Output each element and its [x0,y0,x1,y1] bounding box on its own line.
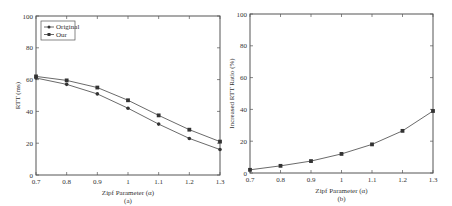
data-point [95,86,99,90]
y-tick-label: 100 [23,13,34,21]
x-tick-label: 1 [340,176,344,184]
data-point [248,168,252,172]
y-tick-label: 80 [240,42,248,50]
y-axis-label: Increased RTT Ratio (%) [228,58,236,129]
data-point [157,122,161,126]
y-axis-label: RTT (ms) [14,81,22,109]
data-point [65,83,69,87]
caption: (a) [124,197,132,205]
data-point [96,92,100,96]
x-axis-label: Zipf Parameter (α) [102,189,155,197]
chart-b: 0204060801000.70.80.911.11.21.3Zipf Para… [228,11,438,204]
legend: OriginalOur [41,21,79,40]
data-point [65,78,69,82]
y-tick-label: 40 [26,108,34,116]
y-tick-label: 80 [26,44,34,52]
data-point [370,142,374,146]
x-tick-label: 1.1 [154,178,163,186]
x-tick-label: 1.1 [368,176,377,184]
legend-entry: Our [56,31,68,39]
data-point [401,129,405,133]
series-line-original [36,78,220,150]
data-point [218,148,222,152]
data-point [126,98,130,102]
data-point [34,75,38,79]
y-tick-label: 100 [237,11,248,19]
x-tick-label: 1.3 [216,178,225,186]
y-tick-label: 40 [240,106,248,114]
x-axis-label: Zipf Parameter (α) [315,187,368,195]
data-point [309,159,313,163]
y-tick-label: 20 [26,140,34,148]
data-point [157,113,161,117]
x-tick-label: 0.8 [62,178,71,186]
x-tick-label: 0.9 [307,176,316,184]
figure: 0204060801000.70.80.911.11.21.3Zipf Para… [0,0,452,206]
y-tick-label: 20 [240,138,248,146]
data-point [431,109,435,113]
x-tick-label: 0.7 [246,176,255,184]
chart-a: 0204060801000.70.80.911.11.21.3Zipf Para… [14,13,225,206]
data-point [187,128,191,132]
plot-area [250,14,433,173]
data-point [126,106,130,110]
y-tick-label: 60 [26,76,34,84]
series-line-increased-rtt-ratio [250,111,433,170]
x-tick-label: 1 [126,178,130,186]
data-point [188,137,192,141]
caption: (b) [337,195,346,203]
y-tick-label: 60 [240,74,248,82]
x-tick-label: 0.8 [276,176,285,184]
x-tick-label: 1.2 [185,178,194,186]
x-tick-label: 1.3 [429,176,438,184]
data-point [340,152,344,156]
data-point [279,164,283,168]
x-tick-label: 1.2 [398,176,407,184]
x-tick-label: 0.7 [32,178,41,186]
data-point [218,140,222,144]
x-tick-label: 0.9 [93,178,102,186]
